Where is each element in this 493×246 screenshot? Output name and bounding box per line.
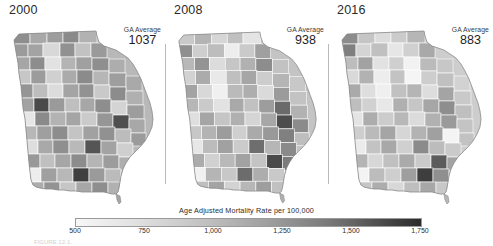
colorbar-tick-label: 1,000 [204, 227, 222, 234]
legend: Age Adjusted Mortality Rate per 100,000 … [0, 206, 493, 240]
colorbar-tick-label: 1,500 [342, 227, 360, 234]
colorbar-tick-label: 750 [138, 227, 150, 234]
georgia-choropleth-map-2008 [165, 24, 328, 210]
map-panel-2000: 2000 GA Average 1037 [0, 0, 165, 212]
legend-title: Age Adjusted Mortality Rate per 100,000 [0, 206, 493, 215]
georgia-choropleth-map-2016 [328, 24, 493, 210]
panel-year-label: 2008 [174, 3, 203, 17]
map-panel-2016: 2016 GA Average 883 [328, 0, 493, 212]
panel-divider [328, 44, 329, 184]
figure-caption: FIGURE 12-1. [0, 239, 493, 246]
panel-year-label: 2016 [337, 3, 366, 17]
colorbar [75, 218, 422, 227]
figure-caption-text: FIGURE 12-1. [0, 239, 493, 245]
colorbar-tick-label: 1,250 [273, 227, 291, 234]
georgia-choropleth-map-2000 [0, 24, 165, 210]
map-panel-2008: 2008 GA Average 938 [165, 0, 328, 212]
colorbar-tick-label: 1,750 [411, 227, 429, 234]
panel-year-label: 2000 [9, 3, 38, 17]
figure-container: 2000 GA Average 1037 [0, 0, 493, 246]
panel-divider [165, 44, 166, 184]
colorbar-tick-label: 500 [69, 227, 81, 234]
colorbar-ticks: 5007501,0001,2501,5001,750 [75, 227, 420, 239]
